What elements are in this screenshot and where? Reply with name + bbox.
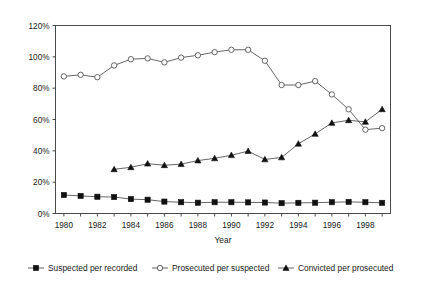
data-point-circle <box>346 107 351 112</box>
series-layer <box>61 47 385 206</box>
data-point-circle <box>229 47 234 52</box>
data-point-square <box>128 196 133 201</box>
plot-frame <box>56 26 391 214</box>
x-tick-label: 1990 <box>222 221 241 230</box>
data-point-circle <box>379 125 384 130</box>
data-point-triangle <box>245 148 251 154</box>
data-point-circle <box>296 82 301 87</box>
x-tick-label: 1992 <box>256 221 275 230</box>
legend-item-1: Suspected per recorded <box>28 263 138 273</box>
legend-item-2: Prosecuted per suspected <box>152 263 270 273</box>
x-axis-title-text: Year <box>215 235 232 245</box>
data-point-circle <box>329 92 334 97</box>
series-3 <box>111 106 385 172</box>
y-tick-label: 0% <box>38 210 50 219</box>
data-point-circle <box>128 56 133 61</box>
x-axis-title: Year <box>215 235 232 245</box>
data-point-triangle <box>379 106 385 112</box>
x-tick-label: 1994 <box>289 221 308 230</box>
data-point-circle <box>279 82 284 87</box>
data-point-circle <box>61 74 66 79</box>
data-point-square <box>329 200 334 205</box>
data-point-circle <box>262 58 267 63</box>
data-point-circle <box>363 127 368 132</box>
data-point-triangle <box>145 161 151 167</box>
data-point-square <box>179 200 184 205</box>
chart-canvas: 0%20%40%60%80%100%120% 19801982198419861… <box>0 0 422 283</box>
y-tick-label: 60% <box>33 116 49 125</box>
x-tick-label: 1988 <box>189 221 208 230</box>
data-point-square <box>33 265 38 270</box>
x-tick-label: 1998 <box>356 221 375 230</box>
x-tick-label: 1986 <box>155 221 174 230</box>
data-point-circle <box>162 60 167 65</box>
series-1 <box>61 192 384 205</box>
chart-legend: Suspected per recordedProsecuted per sus… <box>28 263 394 273</box>
data-point-circle <box>195 53 200 58</box>
data-point-circle <box>212 49 217 54</box>
legend-label-text: Suspected per recorded <box>48 263 138 273</box>
data-point-square <box>61 192 66 197</box>
y-tick-label: 80% <box>33 84 49 93</box>
y-tick-label: 40% <box>33 147 49 156</box>
series-2 <box>61 47 385 132</box>
data-point-circle <box>145 56 150 61</box>
data-point-square <box>195 200 200 205</box>
x-tick-label: 1984 <box>122 221 141 230</box>
data-point-square <box>246 200 251 205</box>
y-tick-label: 20% <box>33 178 49 187</box>
data-point-triangle <box>295 141 301 147</box>
data-point-circle <box>111 63 116 68</box>
data-point-square <box>162 199 167 204</box>
data-point-circle <box>157 265 162 270</box>
data-point-square <box>145 197 150 202</box>
data-point-square <box>78 193 83 198</box>
data-point-triangle <box>312 131 318 137</box>
data-point-square <box>279 201 284 206</box>
legend-item-3: Convicted per prosecuted <box>278 263 394 273</box>
y-tick-label: 100% <box>29 53 50 62</box>
data-point-square <box>296 200 301 205</box>
data-point-square <box>95 194 100 199</box>
data-point-square <box>380 200 385 205</box>
legend-label-text: Convicted per prosecuted <box>298 263 394 273</box>
data-point-circle <box>95 75 100 80</box>
data-point-square <box>262 200 267 205</box>
series-line <box>64 50 382 130</box>
data-point-square <box>363 200 368 205</box>
series-line <box>114 109 382 169</box>
data-point-circle <box>245 47 250 52</box>
data-point-circle <box>178 55 183 60</box>
data-point-square <box>346 199 351 204</box>
line-chart: 0%20%40%60%80%100%120% 19801982198419861… <box>0 0 422 283</box>
data-point-circle <box>312 78 317 83</box>
x-axis-tick-labels: 1980198219841986198819901992199419961998 <box>55 221 375 230</box>
data-point-square <box>313 200 318 205</box>
y-tick-label: 120% <box>29 22 50 31</box>
data-point-triangle <box>346 117 352 123</box>
data-point-square <box>112 194 117 199</box>
x-tick-label: 1980 <box>55 221 74 230</box>
x-tick-label: 1996 <box>323 221 342 230</box>
y-axis-tick-labels: 0%20%40%60%80%100%120% <box>29 22 50 219</box>
legend-label-text: Prosecuted per suspected <box>172 263 270 273</box>
data-point-square <box>229 200 234 205</box>
data-point-square <box>212 200 217 205</box>
x-tick-label: 1982 <box>88 221 107 230</box>
data-point-circle <box>78 72 83 77</box>
